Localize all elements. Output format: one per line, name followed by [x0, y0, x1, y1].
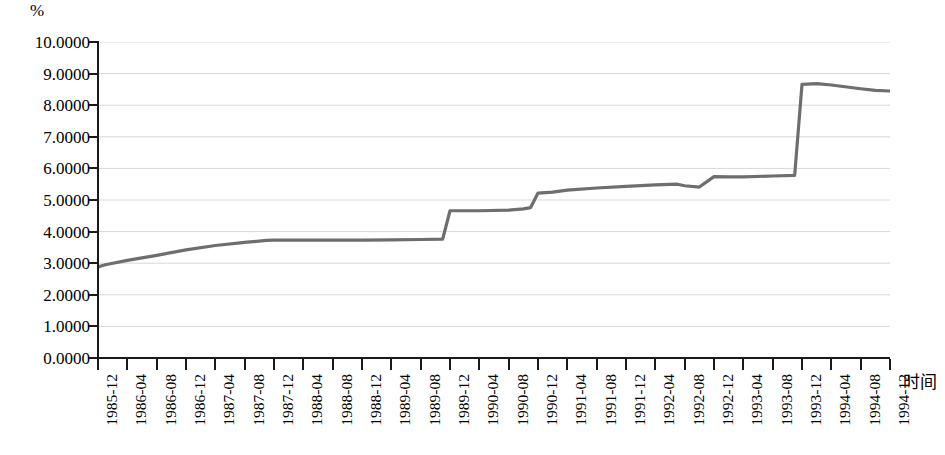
x-axis-tick-label: 1988-08 [339, 374, 355, 426]
x-axis-tick-label: 1989-08 [427, 374, 443, 426]
x-axis-tick-label: 1993-12 [808, 374, 824, 426]
x-axis-tick-label: 1988-04 [309, 374, 325, 426]
x-axis-tick-label: 1991-08 [603, 374, 619, 426]
x-axis-tick-label: 1993-08 [779, 374, 795, 426]
x-axis-tick-label: 1989-12 [456, 374, 472, 426]
x-axis-tick-label: 1992-12 [720, 374, 736, 426]
x-axis-tick-label: 1989-04 [397, 374, 413, 426]
x-axis-tick-label: 1992-08 [691, 374, 707, 426]
x-axis-tick-label: 1991-04 [573, 374, 589, 426]
x-axis-tick-label: 1994-04 [837, 374, 853, 426]
x-axis-tick-label: 1986-08 [163, 374, 179, 426]
x-axis-tick-label: 1992-04 [661, 374, 677, 426]
x-axis-tick-label: 1994-08 [867, 374, 883, 426]
x-axis-tick-label: 1986-12 [192, 374, 208, 426]
x-axis-tick-label: 1986-04 [133, 374, 149, 426]
x-axis-tick-label: 1987-12 [280, 374, 296, 426]
x-axis-tick-label: 1988-12 [368, 374, 384, 426]
x-axis-tick-label: 1987-08 [251, 374, 267, 426]
line-chart: % 10.00009.00008.00007.00006.00005.00004… [0, 0, 945, 455]
x-axis-tick-label: 1991-12 [632, 374, 648, 426]
x-axis-title: 时间 [903, 374, 937, 392]
x-axis-tick-label: 1990-08 [515, 374, 531, 426]
x-axis-tick-labels: 1985-121986-041986-081986-121987-041987-… [0, 0, 945, 455]
x-axis-tick-label: 1987-04 [221, 374, 237, 426]
x-axis-tick-label: 1993-04 [749, 374, 765, 426]
x-axis-tick-label: 1990-12 [544, 374, 560, 426]
x-axis-tick-label: 1990-04 [485, 374, 501, 426]
x-axis-tick-label: 1985-12 [104, 374, 120, 426]
